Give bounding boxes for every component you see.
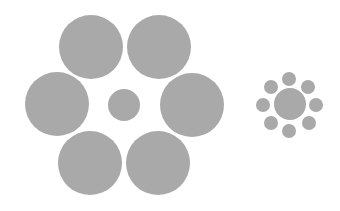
surround-circle	[160, 73, 224, 137]
surround-circle	[309, 98, 323, 112]
surround-circle	[58, 131, 122, 195]
surround-circle	[127, 15, 191, 79]
surround-circle	[282, 124, 296, 138]
surround-circle	[301, 80, 315, 94]
surround-circle	[126, 131, 190, 195]
surround-circle	[256, 98, 270, 112]
surround-circle	[264, 116, 278, 130]
center-circle	[108, 89, 140, 121]
surround-circle	[25, 72, 89, 136]
surround-circle	[302, 116, 316, 130]
center-circle	[274, 88, 306, 120]
surround-circle	[59, 15, 123, 79]
small-surround-group	[256, 72, 323, 138]
surround-circle	[282, 72, 296, 86]
large-surround-group	[25, 15, 224, 195]
ebbinghaus-illusion-diagram	[0, 0, 340, 211]
surround-circle	[264, 80, 278, 94]
